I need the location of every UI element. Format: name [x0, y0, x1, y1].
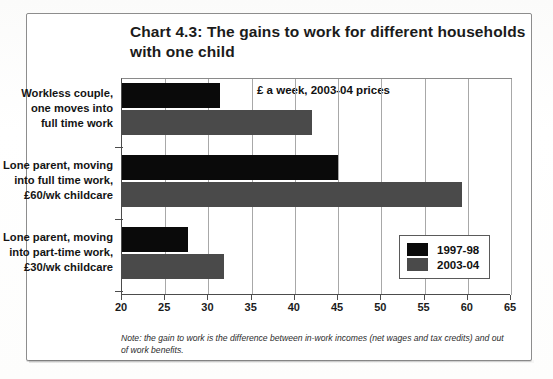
x-axis-tick-label: 55	[417, 301, 429, 313]
x-axis-tick-label: 40	[288, 301, 300, 313]
category-label: Workless couple,one moves intofull time …	[0, 86, 113, 131]
x-axis-tick	[337, 295, 338, 300]
category-label: Lone parent, movinginto full time work,£…	[0, 158, 113, 203]
category-label-line: full time work	[0, 116, 113, 131]
chart-title: Chart 4.3: The gains to work for differe…	[130, 22, 530, 63]
y-axis-group-tick	[115, 291, 123, 292]
legend-swatch	[407, 243, 428, 256]
category-label-line: £30/wk childcare	[0, 260, 113, 275]
legend-item: 1997-98	[407, 243, 479, 256]
x-axis-tick	[164, 295, 165, 300]
y-axis-group-tick	[115, 147, 123, 148]
bar-2003-04-1	[122, 110, 312, 135]
bar-2003-04-2	[122, 182, 462, 207]
x-axis-tick-label: 45	[331, 301, 343, 313]
chart-footnote: Note: the gain to work is the difference…	[121, 332, 511, 357]
x-axis-tick-label: 25	[158, 301, 170, 313]
category-label: Lone parent, movinginto part-time work,£…	[0, 230, 113, 275]
x-axis: 20253035404550556065	[121, 294, 510, 295]
category-label-line: Lone parent, moving	[0, 230, 113, 245]
bar-1997-98-2	[122, 155, 338, 180]
x-axis-tick-label: 50	[374, 301, 386, 313]
x-axis-tick	[294, 295, 295, 300]
y-axis-group-tick	[115, 219, 123, 220]
x-axis-tick-label: 65	[504, 301, 516, 313]
chart-subtitle: £ a week, 2003-04 prices	[257, 84, 390, 96]
category-label-line: £60/wk childcare	[0, 188, 113, 203]
x-axis-tick	[380, 295, 381, 300]
category-label-line: Lone parent, moving	[0, 158, 113, 173]
legend-swatch	[407, 258, 428, 271]
x-axis-tick	[510, 295, 511, 300]
gridline	[511, 79, 512, 295]
x-axis-tick-label: 20	[115, 301, 127, 313]
x-axis-tick-label: 35	[245, 301, 257, 313]
legend-label: 2003-04	[437, 259, 479, 271]
x-axis-tick	[121, 295, 122, 300]
category-label-line: one moves into	[0, 101, 113, 116]
x-axis-tick-label: 30	[201, 301, 213, 313]
chart-legend: 1997-982003-04	[399, 235, 490, 279]
legend-label: 1997-98	[437, 244, 479, 256]
category-label-line: into full time work,	[0, 173, 113, 188]
x-axis-tick-label: 60	[461, 301, 473, 313]
bar-1997-98-3	[122, 227, 188, 252]
category-label-line: into part-time work,	[0, 245, 113, 260]
x-axis-tick	[424, 295, 425, 300]
x-axis-tick	[207, 295, 208, 300]
bar-2003-04-3	[122, 254, 224, 279]
bar-1997-98-1	[122, 83, 220, 108]
x-axis-tick	[251, 295, 252, 300]
category-label-line: Workless couple,	[0, 86, 113, 101]
legend-item: 2003-04	[407, 258, 479, 271]
x-axis-tick	[467, 295, 468, 300]
